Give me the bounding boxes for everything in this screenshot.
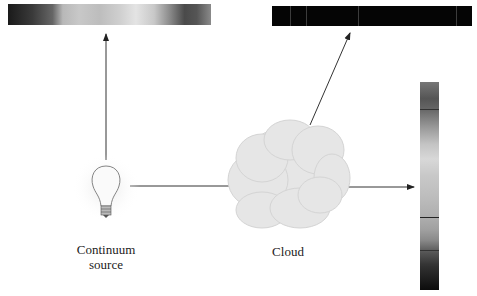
- arrow-emission: [310, 33, 350, 125]
- light-bulb-icon: [72, 154, 140, 222]
- cloud-label: Cloud: [258, 244, 318, 259]
- label-line: source: [70, 257, 142, 272]
- cloud-icon: [228, 120, 350, 228]
- label-line: Continuum: [70, 242, 142, 257]
- continuum-source-label: Continuum source: [70, 242, 142, 272]
